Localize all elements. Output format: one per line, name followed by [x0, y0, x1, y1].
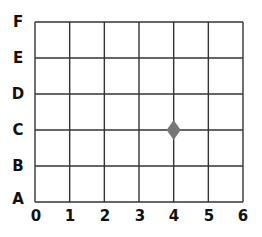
- diamond-marker: [167, 120, 181, 140]
- y-label-a: A: [11, 192, 25, 207]
- x-label-5: 5: [202, 209, 216, 224]
- y-label-d: D: [11, 87, 25, 102]
- x-label-0: 0: [29, 209, 43, 224]
- x-label-1: 1: [63, 209, 77, 224]
- x-label-6: 6: [236, 209, 250, 224]
- x-label-2: 2: [98, 209, 112, 224]
- y-label-c: C: [11, 123, 25, 138]
- y-label-b: B: [11, 159, 25, 174]
- y-label-f: F: [11, 15, 25, 30]
- x-label-4: 4: [167, 209, 181, 224]
- y-label-e: E: [11, 51, 25, 66]
- coordinate-grid: [0, 0, 262, 237]
- x-label-3: 3: [133, 209, 147, 224]
